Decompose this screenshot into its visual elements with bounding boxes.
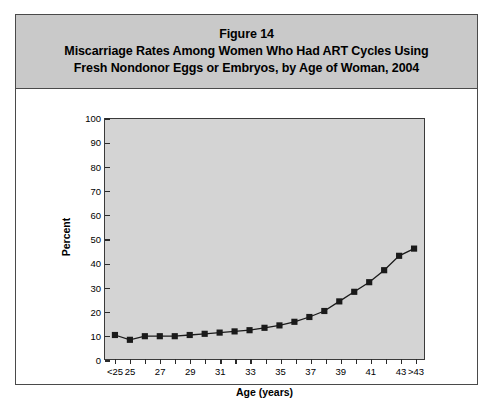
x-axis-tick-mark (145, 359, 146, 364)
y-axis-tick-label: 40 (90, 259, 105, 269)
data-point-marker (172, 333, 178, 339)
data-point-marker (246, 327, 252, 333)
x-axis-tick-mark (311, 359, 312, 364)
x-axis-tick-mark (175, 359, 176, 364)
chart-area: Percent 0102030405060708090100<252527293… (16, 89, 477, 384)
y-axis-tick-mark (105, 264, 110, 265)
data-point-marker (411, 246, 417, 252)
data-point-marker (202, 331, 208, 337)
x-axis-tick-mark (115, 359, 116, 364)
x-axis-tick-mark (386, 359, 387, 364)
x-axis-tick-mark (250, 359, 251, 364)
x-axis-tick-mark (130, 359, 131, 364)
x-axis-tick-label: 43 (396, 366, 407, 377)
x-axis-tick-mark (416, 359, 417, 364)
data-point-marker (187, 332, 193, 338)
x-axis-label: Age (years) (104, 386, 425, 398)
data-point-marker (336, 298, 342, 304)
x-axis-tick-label: 35 (275, 366, 286, 377)
x-axis-tick-label: <25 (107, 366, 123, 377)
y-axis-tick-label: 20 (90, 308, 105, 318)
plot-area: 0102030405060708090100<25252729313335373… (104, 118, 425, 360)
y-axis-label: Percent (60, 217, 72, 256)
y-axis-tick-mark (105, 288, 110, 289)
x-axis-tick-label: 37 (305, 366, 316, 377)
figure-title-band: Figure 14 Miscarriage Rates Among Women … (16, 15, 477, 89)
y-axis-tick-mark (105, 360, 110, 361)
x-axis-tick-label: 39 (335, 366, 346, 377)
y-axis-tick-label: 10 (90, 332, 105, 342)
data-point-marker (291, 319, 297, 325)
data-point-marker (157, 333, 163, 339)
x-axis-tick-mark (190, 359, 191, 364)
x-axis-tick-mark (356, 359, 357, 364)
y-axis-tick-mark (105, 312, 110, 313)
figure-frame: Figure 14 Miscarriage Rates Among Women … (15, 14, 478, 385)
x-axis-tick-mark (371, 359, 372, 364)
figure-title-line-1: Miscarriage Rates Among Women Who Had AR… (64, 43, 428, 60)
y-axis-tick-mark (105, 215, 110, 216)
x-axis-tick-label: >43 (408, 366, 424, 377)
x-axis-tick-label: 25 (125, 366, 136, 377)
y-axis-tick-label: 70 (90, 187, 105, 197)
data-point-marker (321, 308, 327, 314)
data-point-marker (381, 267, 387, 273)
x-axis-tick-mark (235, 359, 236, 364)
x-axis-tick-label: 33 (245, 366, 256, 377)
x-axis-tick-mark (296, 359, 297, 364)
x-axis-tick-mark (205, 359, 206, 364)
figure-title-line-2: Fresh Nondonor Eggs or Embryos, by Age o… (74, 60, 419, 77)
x-axis-tick-label: 31 (215, 366, 226, 377)
y-axis-tick-mark (105, 118, 110, 119)
data-point-marker (276, 322, 282, 328)
x-axis-tick-mark (401, 359, 402, 364)
y-axis-tick-label: 0 (96, 356, 105, 366)
y-axis-tick-label: 30 (90, 284, 105, 294)
data-point-marker (261, 325, 267, 331)
x-axis-tick-mark (220, 359, 221, 364)
x-axis-tick-label: 29 (185, 366, 196, 377)
data-point-marker (112, 332, 118, 338)
x-axis-tick-label: 41 (366, 366, 377, 377)
data-point-marker (217, 330, 223, 336)
x-axis-tick-mark (281, 359, 282, 364)
data-point-marker (232, 328, 238, 334)
y-axis-tick-label: 80 (90, 163, 105, 173)
data-point-marker (396, 253, 402, 259)
figure-number: Figure 14 (219, 26, 274, 43)
data-point-marker (366, 279, 372, 285)
y-axis-tick-mark (105, 336, 110, 337)
y-axis-tick-label: 100 (85, 114, 105, 124)
x-axis-tick-mark (326, 359, 327, 364)
data-point-marker (142, 333, 148, 339)
x-axis-tick-mark (341, 359, 342, 364)
x-axis-tick-mark (160, 359, 161, 364)
data-point-marker (127, 337, 133, 343)
y-axis-tick-mark (105, 239, 110, 240)
data-point-marker (306, 314, 312, 320)
y-axis-tick-label: 60 (90, 211, 105, 221)
data-point-marker (351, 289, 357, 295)
y-axis-tick-mark (105, 167, 110, 168)
y-axis-tick-mark (105, 143, 110, 144)
plot-inner: 0102030405060708090100<25252729313335373… (105, 119, 424, 359)
series-line (105, 119, 424, 359)
y-axis-tick-label: 90 (90, 138, 105, 148)
x-axis-tick-mark (266, 359, 267, 364)
y-axis-tick-label: 50 (90, 235, 105, 245)
x-axis-tick-label: 27 (155, 366, 166, 377)
y-axis-tick-mark (105, 191, 110, 192)
